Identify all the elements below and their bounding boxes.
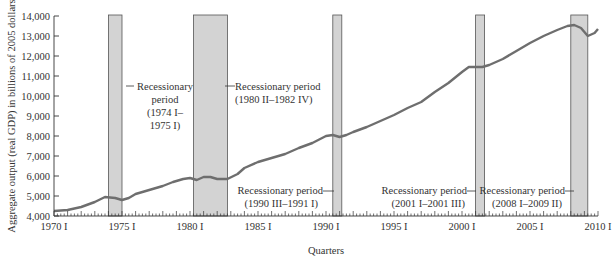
y-tick-label: 10,000 [21,91,50,102]
annotation-1990: Recessionary period (1990 III–1991 I) [238,185,334,210]
annotation-1974-line3: (1974 I– [147,107,184,119]
x-tick-label: 1975 I [108,221,136,232]
y-axis-title: Aggregate output (real GDP) in billions … [6,0,18,233]
annotation-2008-line2: (2008 I–2009 II) [492,198,562,210]
annotation-2001-line1: Recessionary period [382,185,468,196]
recession-bar [571,15,588,216]
annotation-1980: Recessionary period (1980 II–1982 IV) [225,81,321,106]
x-tick-label: 2010 I [584,221,612,232]
x-tick-label: 1995 I [380,221,408,232]
x-tick-label: 1970 I [40,221,68,232]
x-tick-label: 1985 I [244,221,272,232]
annotation-1980-line1: Recessionary period [235,81,321,92]
x-axis: 1970 I1975 I1980 I1985 I1990 I1995 I2000… [40,211,612,232]
x-tick-label: 2000 I [448,221,476,232]
recession-bar [193,15,227,216]
annotation-2001-line2: (2001 I–2001 III) [392,198,466,210]
y-tick-label: 14,000 [21,11,50,22]
y-tick-label: 13,000 [21,31,50,42]
y-tick-label: 9,000 [26,111,50,122]
annotation-1990-line2: (1990 III–1991 I) [245,198,319,210]
annotation-1974-line2: period [152,94,180,105]
y-axis: 4,0005,0006,0007,0008,0009,00010,00011,0… [21,11,59,222]
recession-bar [108,15,122,216]
x-tick-label: 1980 I [176,221,204,232]
y-tick-label: 5,000 [26,191,50,202]
annotation-1990-line1: Recessionary period [238,185,324,196]
y-tick-label: 7,000 [26,151,50,162]
y-tick-label: 6,000 [26,171,50,182]
gdp-series-line [54,25,598,211]
annotation-1974: Recessionary period (1974 I– 1975 I) [126,81,194,132]
annotation-2001: Recessionary period (2001 I–2001 III) [382,185,476,210]
recession-bar [333,15,342,216]
x-tick-label: 1990 I [312,221,340,232]
gdp-chart: 4,0005,0006,0007,0008,0009,00010,00011,0… [0,0,615,266]
x-axis-title: Quarters [308,245,344,256]
annotation-2008: Recessionary period (2008 I–2009 II) [480,185,574,210]
annotation-2008-line1: Recessionary period [480,185,566,196]
y-tick-label: 8,000 [26,131,50,142]
y-tick-label: 4,000 [26,211,50,222]
gdp-line [54,25,598,211]
y-tick-label: 12,000 [21,51,50,62]
annotation-1980-line2: (1980 II–1982 IV) [235,94,313,106]
x-tick-label: 2005 I [516,221,544,232]
y-tick-label: 11,000 [22,71,51,82]
annotation-1974-line4: 1975 I) [150,120,181,132]
annotation-1974-line1: Recessionary [137,81,194,92]
